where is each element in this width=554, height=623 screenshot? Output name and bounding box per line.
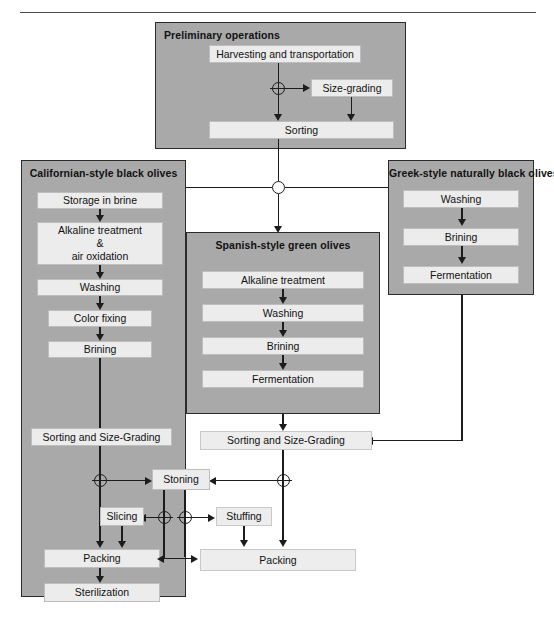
box-harvesting-and-transportation: Harvesting and transportation — [209, 45, 361, 63]
arrow-junction-to-sorting — [274, 114, 282, 121]
box-spanish-washing: Washing — [202, 304, 364, 322]
arrow-slicing-to-cal-packing — [118, 541, 126, 548]
box-size-grading: Size-grading — [311, 79, 393, 97]
junction-stuffing-split — [179, 511, 192, 524]
box-greek-fermentation: Fermentation — [403, 266, 519, 284]
box-californian-color-fixing: Color fixing — [48, 310, 152, 327]
junction-californian-stoning-split — [94, 474, 107, 487]
arrow-cal-storage-to-alkaline — [96, 215, 104, 222]
junction-main-stoning-split — [277, 474, 290, 487]
connector-stoning-to-stuffing-junction — [184, 490, 185, 511]
arrow-cal-to-stoning — [145, 477, 152, 485]
connector-main-junction-to-packing — [282, 487, 283, 542]
box-spanish-alkaline-treatment: Alkaline treatment — [202, 271, 364, 289]
box-slicing: Slicing — [100, 507, 144, 526]
panel-title-spanish: Spanish-style green olives — [187, 239, 379, 251]
box-californian-brining: Brining — [48, 341, 152, 358]
connector-to-cal-packing-feedback — [161, 558, 185, 559]
arrow-cal-alkaline-to-washing — [96, 272, 104, 279]
arrow-sp-washing-to-brining — [279, 330, 287, 337]
arrow-to-cal-packing-feedback — [157, 555, 164, 563]
connector-greek-down-to-main-sorting — [461, 295, 462, 441]
box-spanish-fermentation: Fermentation — [202, 370, 364, 388]
arrow-to-size-grading — [303, 84, 310, 92]
panel-title-californian: Californian-style black olives — [22, 167, 185, 179]
box-californian-sorting-and-size-grading: Sorting and Size-Grading — [31, 428, 172, 446]
panel-title-preliminary: Preliminary operations — [156, 29, 405, 41]
box-greek-brining: Brining — [403, 228, 519, 246]
box-spanish-brining: Brining — [202, 337, 364, 355]
arrow-sp-alkaline-to-washing — [279, 297, 287, 304]
box-stoning: Stoning — [152, 469, 210, 490]
connector-cal-junction-to-stoning — [107, 480, 148, 481]
arrow-main-junction-to-packing — [279, 540, 287, 547]
olive-processing-flowchart: Preliminary operations Harvesting and tr… — [0, 0, 554, 623]
arrow-spanish-to-main-sorting — [279, 424, 287, 431]
box-main-packing: Packing — [200, 549, 356, 571]
box-main-sorting-and-size-grading: Sorting and Size-Grading — [200, 431, 372, 450]
box-greek-washing: Washing — [403, 190, 519, 208]
arrow-sp-brining-to-fermentation — [279, 363, 287, 370]
connector-main-sorting-to-junction — [282, 450, 283, 474]
connector-cal-brining-to-sorting-grading — [99, 358, 100, 428]
box-californian-packing: Packing — [44, 549, 160, 568]
box-sorting: Sorting — [209, 121, 394, 139]
connector-greek-left-to-main-sorting — [370, 440, 462, 441]
box-californian-washing: Washing — [37, 279, 163, 296]
arrow-cal-washing-to-color-fixing — [96, 303, 104, 310]
arrow-gr-brining-to-fermentation — [458, 257, 466, 264]
junction-style-split — [272, 181, 285, 194]
connector-split-to-spanish — [278, 194, 279, 230]
connector-sorting-to-style-split — [278, 139, 279, 181]
arrow-cal-junction-to-packing — [96, 541, 104, 548]
panel-title-greek: Greek-style naturally black olives — [389, 167, 533, 179]
junction-slicing-split — [158, 511, 171, 524]
box-stuffing: Stuffing — [216, 507, 272, 526]
box-californian-sterilization: Sterilization — [44, 583, 160, 602]
top-divider-rule — [20, 12, 536, 13]
box-californian-storage-in-brine: Storage in brine — [37, 192, 163, 209]
connector-main-junction-to-stoning — [214, 480, 277, 481]
connector-stoning-to-slicing-junction — [163, 490, 164, 511]
arrow-size-grading-to-sorting — [347, 114, 355, 121]
arrow-main-to-stoning — [209, 477, 216, 485]
arrow-cal-packing-to-sterilization — [96, 576, 104, 583]
arrow-gr-washing-to-brining — [458, 219, 466, 226]
junction-preliminary-split — [272, 82, 285, 95]
box-californian-alkaline-treatment-air-oxidation: Alkaline treatment & air oxidation — [37, 222, 163, 265]
arrow-cal-color-fixing-to-brining — [96, 334, 104, 341]
connector-junction-to-slicing — [144, 517, 158, 518]
connector-stoning-right-down — [184, 524, 185, 557]
arrow-slicing-junction-to-main-packing — [191, 555, 198, 563]
connector-cal-sorting-to-junction — [99, 446, 100, 474]
arrow-stuffing-to-main-packing — [240, 540, 248, 547]
arrow-to-stuffing — [208, 514, 215, 522]
